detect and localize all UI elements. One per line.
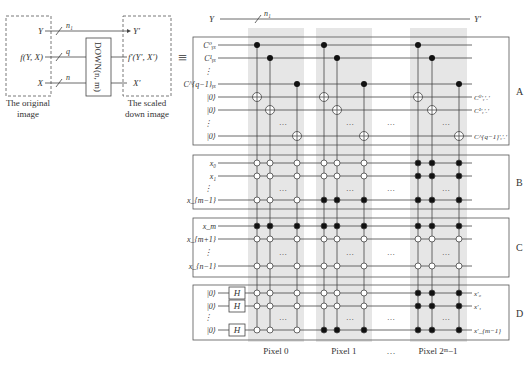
scaled-caption-2: down image — [125, 109, 169, 119]
row-label-vdots: ⋮ — [204, 313, 212, 322]
quantum-circuit-diagram: DOWN(n, m) n₁ q n Y f(Y, X) X Y′ f′(Y′, … — [0, 0, 530, 368]
svg-text:…: … — [442, 118, 450, 127]
out-label-x0-prime: x′₀ — [473, 290, 482, 298]
row-label-ket0: |0⟩ — [207, 106, 216, 115]
row-label-vdots: ⋮ — [204, 67, 212, 76]
out-label-c0-prime: C⁰′ᵧ′ₓ′ — [474, 94, 490, 102]
h-gate-label: H — [233, 288, 241, 298]
row-label-ket0: |0⟩ — [207, 93, 216, 102]
row-label-c1: C¹ᵧₓ — [204, 54, 216, 63]
out-label-cq1-prime: C^{q−1}′ᵧ′ₓ′ — [474, 133, 508, 141]
svg-text:…: … — [279, 184, 287, 193]
input-label-y: Y — [38, 26, 44, 36]
svg-text:…: … — [346, 248, 354, 257]
svg-text:…: … — [279, 248, 287, 257]
svg-text:…: … — [387, 118, 395, 127]
h-gate-label: H — [233, 325, 241, 335]
original-caption: The original — [6, 98, 51, 108]
row-label-x0: x₀ — [209, 159, 217, 168]
svg-text:…: … — [346, 184, 354, 193]
svg-text:…: … — [387, 184, 395, 193]
row-label-xm-plus1: x_{m+1} — [186, 235, 217, 244]
equivalence-symbol: ≡ — [178, 49, 187, 66]
width-label-n1: n₁ — [66, 21, 73, 30]
row-label-ket0: |0⟩ — [207, 302, 216, 311]
pixel-last-label: Pixel 2ᵐ−1 — [418, 346, 457, 356]
out-label-c1-prime: C¹′ᵧ′ₓ′ — [474, 107, 489, 115]
down-gate-label: DOWN(n, m) — [93, 42, 103, 92]
svg-text:…: … — [279, 313, 287, 322]
y-wire-width: n₁ — [264, 9, 271, 18]
out-label-xm1-prime: x′_{m−1} — [473, 327, 501, 335]
section-d-label: D — [516, 308, 523, 319]
y-wire-in-label: Y — [209, 14, 215, 24]
row-label-xm1: x_{m−1} — [186, 196, 217, 205]
original-caption-2: image — [17, 109, 39, 119]
row-label-ket0: |0⟩ — [207, 289, 216, 298]
pixel-labels: Pixel 0 Pixel 1 … Pixel 2ᵐ−1 — [263, 346, 457, 356]
svg-text:…: … — [442, 184, 450, 193]
row-label-ket0: |0⟩ — [207, 326, 216, 335]
svg-text:…: … — [442, 248, 450, 257]
section-c-label: C — [516, 242, 523, 253]
row-label-vdots: ⋮ — [204, 248, 212, 257]
output-label-f-prime: f′(Y′, X′) — [128, 52, 157, 62]
output-labels: C⁰′ᵧ′ₓ′ C¹′ᵧ′ₓ′ C^{q−1}′ᵧ′ₓ′ x′₀ x′₁ x′_… — [473, 94, 508, 335]
output-label-x-prime: X′ — [132, 78, 141, 88]
row-label-vdots: ⋮ — [204, 119, 212, 128]
section-b-label: B — [516, 177, 523, 188]
row-label-xn1: x_{n−1} — [188, 262, 217, 271]
svg-text:…: … — [442, 313, 450, 322]
h-gate-label: H — [233, 301, 241, 311]
row-label-vdots: ⋮ — [204, 184, 212, 193]
width-label-q: q — [66, 47, 70, 56]
svg-text:…: … — [346, 118, 354, 127]
pixel-1-label: Pixel 1 — [331, 346, 356, 356]
svg-text:…: … — [387, 248, 395, 257]
output-label-y-prime: Y′ — [133, 26, 141, 36]
row-label-xm: x_m — [202, 222, 217, 231]
input-label-fyx: f(Y, X) — [20, 52, 43, 62]
input-label-x: X — [37, 78, 44, 88]
svg-text:…: … — [387, 313, 395, 322]
pixel-ellipsis-label: … — [387, 346, 396, 356]
section-a-label: A — [516, 86, 524, 97]
width-label-n: n — [66, 73, 70, 82]
row-label-x1: x₁ — [209, 172, 217, 181]
svg-text:…: … — [279, 118, 287, 127]
right-circuit: n₁ Y Y′ A B C D — [183, 9, 524, 356]
out-label-x1-prime: x′₁ — [473, 303, 481, 311]
row-label-ket0: |0⟩ — [207, 132, 216, 141]
scaled-caption: The scaled — [128, 98, 167, 108]
y-wire-out-label: Y′ — [474, 14, 482, 24]
row-label-c0: C⁰ᵧₓ — [203, 41, 216, 50]
row-labels: C⁰ᵧₓ C¹ᵧₓ ⋮ C^{q−1}ᵧₓ |0⟩ |0⟩ ⋮ |0⟩ x₀ x… — [183, 41, 216, 335]
pixel-0-label: Pixel 0 — [263, 346, 289, 356]
row-label-cq1: C^{q−1}ᵧₓ — [183, 80, 216, 89]
svg-text:…: … — [346, 313, 354, 322]
left-circuit: DOWN(n, m) n₁ q n Y f(Y, X) X Y′ f′(Y′, … — [6, 16, 187, 119]
